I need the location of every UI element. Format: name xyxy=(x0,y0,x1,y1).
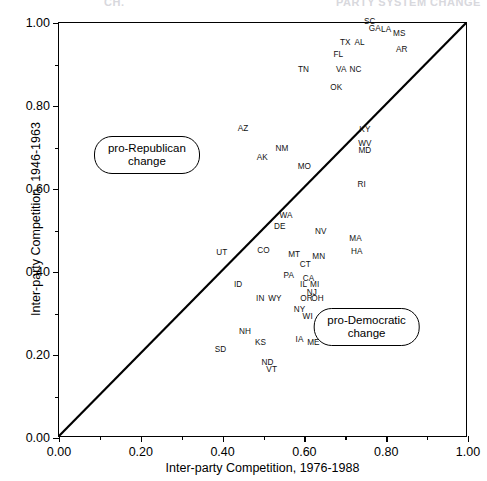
y-tick-major xyxy=(53,189,59,190)
x-tick-major xyxy=(59,436,60,442)
state-point-co: CO xyxy=(257,246,269,255)
x-tick-label: 0.80 xyxy=(374,445,398,459)
state-point-wa: WA xyxy=(279,210,292,219)
state-point-ma: MA xyxy=(349,233,361,242)
state-point-ri: RI xyxy=(357,180,365,189)
x-axis-title: Inter-party Competition, 1976-1988 xyxy=(58,461,467,475)
y-tick-label: 0.00 xyxy=(26,431,50,445)
x-tick-label: 0.60 xyxy=(292,445,316,459)
header-fragment-left: CH. xyxy=(104,0,124,6)
state-point-md: MD xyxy=(358,146,371,155)
state-point-tn: TN xyxy=(298,64,309,73)
state-point-nc: NC xyxy=(350,65,362,74)
x-tick-minor xyxy=(345,436,346,440)
y-tick-major xyxy=(53,106,59,107)
y-tick-minor xyxy=(55,231,59,232)
x-tick-major xyxy=(386,436,387,442)
state-point-ar: AR xyxy=(396,44,408,53)
state-point-nv: NV xyxy=(315,227,327,236)
reference-line-45deg xyxy=(59,23,466,436)
y-tick-major xyxy=(53,355,59,356)
state-point-ha: HA xyxy=(351,247,363,256)
plot-area: SCGALAMSTXALARFLTNVANCOKAZKYWVMDNMAKMORI… xyxy=(58,22,467,437)
state-point-ok: OK xyxy=(330,83,342,92)
state-point-az: AZ xyxy=(238,123,249,132)
state-point-mt: MT xyxy=(288,250,300,259)
x-tick-minor xyxy=(100,436,101,440)
x-tick-minor xyxy=(264,436,265,440)
annotation-line-2: change xyxy=(108,155,186,168)
x-tick-major xyxy=(304,436,305,442)
annotation-line-1: pro-Democratic xyxy=(327,314,406,327)
x-tick-major xyxy=(141,436,142,442)
state-point-mo: MO xyxy=(298,162,311,171)
state-point-tx: TX xyxy=(340,37,351,46)
state-point-nm: NM xyxy=(275,143,288,152)
state-point-oh: OH xyxy=(311,293,323,302)
state-point-ia: IA xyxy=(296,335,304,344)
annotation-line-2: change xyxy=(327,327,406,340)
state-point-sd: SD xyxy=(215,344,227,353)
x-tick-label: 1.00 xyxy=(456,445,480,459)
state-point-mn: MN xyxy=(312,252,325,261)
state-point-ms: MS xyxy=(393,29,405,38)
state-point-al: AL xyxy=(355,37,365,46)
state-point-nh: NH xyxy=(239,326,251,335)
x-tick-major xyxy=(223,436,224,442)
state-point-ks: KS xyxy=(255,337,266,346)
state-point-la: LA xyxy=(381,25,391,34)
state-point-ga: GA xyxy=(369,23,381,32)
pro-democratic-annotation: pro-Democraticchange xyxy=(313,308,420,346)
state-point-ut: UT xyxy=(216,248,227,257)
annotation-line-1: pro-Republican xyxy=(108,142,186,155)
scatter-plot-figure: CH. PARTY SYSTEM CHANGE SCGALAMSTXALARFL… xyxy=(0,0,487,481)
pro-republican-annotation: pro-Republicanchange xyxy=(94,136,200,174)
y-tick-minor xyxy=(55,397,59,398)
x-tick-label: 0.00 xyxy=(47,445,71,459)
state-point-id: ID xyxy=(234,279,242,288)
y-axis-title: Inter-party Competition, 1946-1963 xyxy=(29,19,43,419)
header-fragment-right: PARTY SYSTEM CHANGE xyxy=(336,0,481,6)
y-tick-major xyxy=(53,272,59,273)
x-tick-minor xyxy=(427,436,428,440)
state-point-vt: VT xyxy=(266,364,277,373)
state-point-ct: CT xyxy=(300,259,311,268)
state-point-de: DE xyxy=(274,221,286,230)
x-tick-minor xyxy=(182,436,183,440)
cut-off-page-header: CH. PARTY SYSTEM CHANGE xyxy=(0,0,487,6)
state-point-pa: PA xyxy=(284,271,295,280)
plot-svg xyxy=(59,23,466,436)
y-tick-minor xyxy=(55,314,59,315)
y-tick-minor xyxy=(55,148,59,149)
state-point-wy: WY xyxy=(268,293,281,302)
state-point-ky: KY xyxy=(359,124,370,133)
y-tick-major xyxy=(53,23,59,24)
x-tick-label: 0.40 xyxy=(210,445,234,459)
state-point-in: IN xyxy=(256,293,264,302)
y-tick-minor xyxy=(55,65,59,66)
state-point-fl: FL xyxy=(333,50,343,59)
x-tick-label: 0.20 xyxy=(129,445,153,459)
state-point-va: VA xyxy=(336,65,347,74)
x-tick-major xyxy=(468,436,469,442)
state-point-wi: WI xyxy=(303,311,313,320)
state-point-ak: AK xyxy=(257,152,268,161)
